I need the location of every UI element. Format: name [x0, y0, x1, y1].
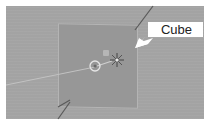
- light-icon[interactable]: [103, 50, 109, 56]
- grid-axis-line: [58, 100, 70, 107]
- relationship-line: [6, 67, 95, 85]
- cube-callout-label: Cube: [148, 22, 203, 37]
- grid-axis-line: [58, 102, 70, 119]
- callout-arrow-head: [135, 38, 148, 48]
- 3d-cursor-icon[interactable]: [110, 53, 124, 67]
- viewport-overlay: [0, 0, 209, 125]
